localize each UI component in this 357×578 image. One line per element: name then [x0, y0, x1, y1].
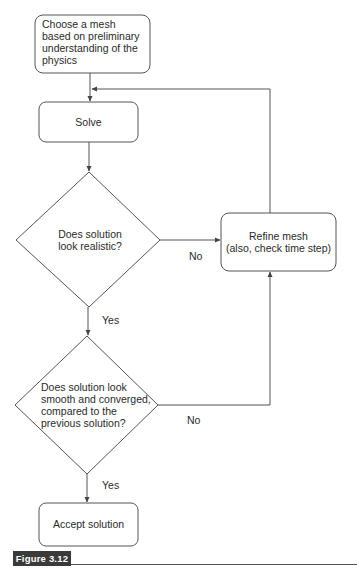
text-line: (also, check time step)	[221, 242, 336, 254]
decision-converged-text: Does solution look smooth and converged,…	[41, 381, 166, 429]
edge-label-q1-no: No	[189, 250, 202, 262]
text-line: smooth and converged,	[41, 393, 166, 405]
text-line: physics	[42, 54, 152, 66]
start-node-text: Choose a mesh based on preliminary under…	[42, 18, 152, 66]
flowchart-graphics	[0, 0, 357, 578]
text-line: based on preliminary	[42, 30, 152, 42]
text-line: compared to the	[41, 405, 166, 417]
caption-divider	[71, 564, 357, 565]
solve-node-text: Solve	[39, 116, 138, 128]
edge-label-q1-yes: Yes	[102, 314, 119, 326]
arrow-refine-feedback-to-solve	[92, 89, 270, 213]
text-line: look realistic?	[30, 240, 150, 252]
arrow-q2-no-to-refine	[158, 272, 270, 405]
edge-label-q2-no: No	[187, 414, 200, 426]
figure-caption-tag: Figure 3.12	[13, 551, 71, 566]
decision-realistic-text: Does solution look realistic?	[30, 228, 150, 252]
text-line: Choose a mesh	[42, 18, 152, 30]
refine-node-text: Refine mesh (also, check time step)	[221, 230, 336, 254]
text-line: Does solution look	[41, 381, 166, 393]
text-line: Does solution	[30, 228, 150, 240]
accept-node-text: Accept solution	[39, 518, 138, 530]
text-line: understanding of the	[42, 42, 152, 54]
text-line: Refine mesh	[221, 230, 336, 242]
text-line: previous solution?	[41, 417, 166, 429]
edge-label-q2-yes: Yes	[102, 479, 119, 491]
